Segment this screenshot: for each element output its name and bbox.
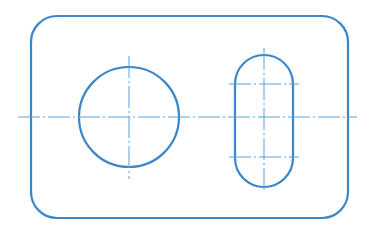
plate-drawing	[0, 0, 379, 229]
technical-drawing-canvas	[0, 0, 379, 229]
